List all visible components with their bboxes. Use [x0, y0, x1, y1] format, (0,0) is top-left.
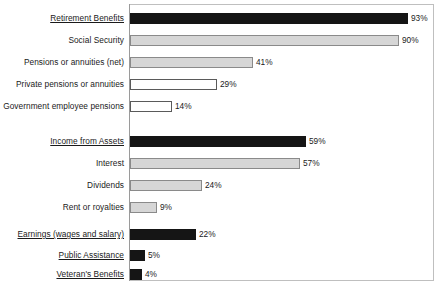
bar-value-label: 5%	[148, 249, 160, 262]
category-label: Rent or royalties	[0, 201, 124, 214]
chart-row: Government employee pensions14%	[0, 100, 445, 113]
bar	[130, 180, 202, 191]
chart-row: Private pensions or annuities29%	[0, 78, 445, 91]
bar-value-label: 9%	[160, 201, 172, 214]
category-label: Earnings (wages and salary)	[0, 228, 124, 241]
bar	[130, 202, 157, 213]
category-label: Pensions or annuities (net)	[0, 56, 124, 69]
category-label: Income from Assets	[0, 135, 124, 148]
category-label: Interest	[0, 157, 124, 170]
chart-row: Retirement Benefits93%	[0, 12, 445, 25]
bar-value-label: 90%	[402, 34, 419, 47]
bar-value-label: 22%	[199, 228, 216, 241]
bar	[130, 57, 253, 68]
chart-row: Dividends24%	[0, 179, 445, 192]
bar	[130, 229, 196, 240]
chart-row: Veteran's Benefits4%	[0, 268, 445, 281]
category-label: Government employee pensions	[0, 100, 124, 113]
bar-value-label: 57%	[303, 157, 320, 170]
category-label: Private pensions or annuities	[0, 78, 124, 91]
bar	[130, 13, 408, 24]
category-label: Veteran's Benefits	[0, 268, 124, 281]
category-label: Dividends	[0, 179, 124, 192]
bar-value-label: 29%	[220, 78, 237, 91]
bar	[130, 269, 142, 280]
category-label: Public Assistance	[0, 249, 124, 262]
bar-value-label: 24%	[205, 179, 222, 192]
bar	[130, 101, 172, 112]
bar-value-label: 59%	[309, 135, 326, 148]
bar	[130, 79, 217, 90]
bar	[130, 136, 306, 147]
chart-row: Income from Assets59%	[0, 135, 445, 148]
chart-row: Earnings (wages and salary)22%	[0, 228, 445, 241]
chart-row: Social Security90%	[0, 34, 445, 47]
bar-value-label: 41%	[256, 56, 273, 69]
bar-value-label: 14%	[175, 100, 192, 113]
chart-row: Interest57%	[0, 157, 445, 170]
category-label: Social Security	[0, 34, 124, 47]
chart-row: Pensions or annuities (net)41%	[0, 56, 445, 69]
bar-value-label: 4%	[145, 268, 157, 281]
bar-value-label: 93%	[411, 12, 428, 25]
chart-row: Public Assistance5%	[0, 249, 445, 262]
bar	[130, 158, 300, 169]
horizontal-bar-chart: Retirement Benefits93%Social Security90%…	[0, 0, 445, 291]
category-label: Retirement Benefits	[0, 12, 124, 25]
bar	[130, 250, 145, 261]
chart-row: Rent or royalties9%	[0, 201, 445, 214]
bar	[130, 35, 399, 46]
